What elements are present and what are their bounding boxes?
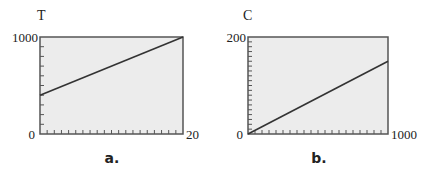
y-max-label-b: 200 [227, 30, 247, 45]
y-axis-title-b: C [243, 8, 252, 23]
y-min-label-b: 0 [237, 127, 244, 142]
plot-frame [40, 37, 183, 134]
panel-caption-b: b. [304, 150, 334, 166]
chart-panel-a: T 1000 0 20 a. [0, 0, 213, 177]
panel-caption-a: a. [97, 150, 127, 166]
plot-frame [248, 37, 388, 134]
y-max-label-a: 1000 [12, 30, 38, 45]
plot-area-a [40, 37, 183, 134]
x-max-label-b: 1000 [391, 127, 417, 142]
chart-panel-b: C 200 0 1000 b. [213, 0, 426, 177]
y-min-label-a: 0 [29, 127, 36, 142]
plot-area-b [248, 37, 388, 134]
y-axis-title-a: T [37, 8, 46, 23]
x-max-label-a: 20 [186, 127, 199, 142]
